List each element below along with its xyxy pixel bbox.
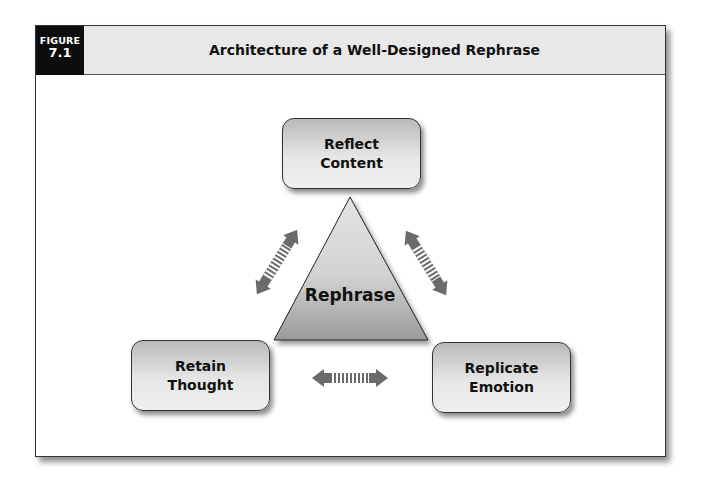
node-line: Reflect bbox=[320, 135, 383, 154]
node-line: Replicate bbox=[465, 359, 539, 378]
double-arrow-horizontal-icon bbox=[312, 369, 388, 387]
replicate-emotion-box: Replicate Emotion bbox=[432, 342, 571, 413]
rephrase-label: Rephrase bbox=[300, 285, 400, 305]
node-line: Thought bbox=[168, 376, 234, 395]
double-arrow-left-diagonal-icon bbox=[249, 225, 305, 299]
reflect-content-box: Reflect Content bbox=[282, 118, 421, 189]
retain-thought-box: Retain Thought bbox=[131, 340, 270, 411]
node-line: Content bbox=[320, 154, 383, 173]
node-line: Retain bbox=[168, 357, 234, 376]
double-arrow-right-diagonal-icon bbox=[398, 226, 454, 300]
diagram-canvas bbox=[0, 0, 703, 483]
node-line: Emotion bbox=[465, 378, 539, 397]
rephrase-triangle bbox=[274, 197, 428, 340]
